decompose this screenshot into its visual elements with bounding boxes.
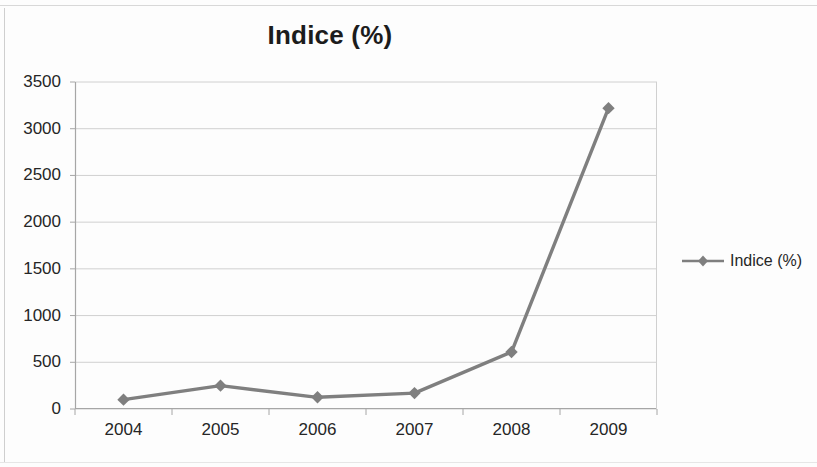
legend-label-indice: Indice (%) [730, 252, 802, 270]
chart-legend: Indice (%) [682, 252, 802, 270]
y-axis-label: 500 [33, 352, 61, 372]
data-point-marker[interactable] [408, 387, 420, 399]
page-border-bottom [0, 462, 817, 463]
diamond-marker-icon [682, 254, 724, 268]
chart-title: Indice (%) [0, 20, 660, 51]
plot-svg [75, 82, 657, 409]
x-axis-label: 2008 [493, 420, 531, 440]
data-point-marker[interactable] [311, 391, 323, 403]
data-point-marker[interactable] [214, 379, 226, 391]
data-point-marker[interactable] [117, 393, 129, 405]
y-axis-label: 3500 [23, 72, 61, 92]
y-axis-tick-labels: 0500100015002000250030003500 [0, 0, 75, 467]
plot-area [75, 82, 657, 409]
x-axis-label: 2006 [299, 420, 337, 440]
data-point-marker[interactable] [505, 346, 517, 358]
data-point-marker[interactable] [602, 102, 614, 114]
y-axis-label: 3000 [23, 119, 61, 139]
x-axis-label: 2007 [396, 420, 434, 440]
series-line-indice- [124, 108, 609, 399]
x-axis-label: 2005 [202, 420, 240, 440]
y-axis-label: 0 [52, 399, 61, 419]
y-axis-label: 1500 [23, 259, 61, 279]
x-axis-label: 2009 [590, 420, 628, 440]
y-axis-label: 2500 [23, 165, 61, 185]
x-axis-tick-labels: 200420052006200720082009 [75, 420, 657, 450]
page-border-top [0, 5, 817, 6]
y-axis-label: 2000 [23, 212, 61, 232]
chart-container: Indice (%) 0500100015002000250030003500 … [0, 0, 817, 467]
y-axis-label: 1000 [23, 306, 61, 326]
x-axis-label: 2004 [105, 420, 143, 440]
